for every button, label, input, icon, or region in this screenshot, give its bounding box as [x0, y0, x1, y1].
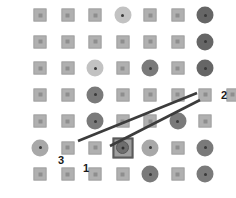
square-atom-marker: [171, 35, 184, 48]
label-1: 1: [83, 163, 89, 174]
atom-center-dot-icon: [66, 66, 70, 70]
atom-center-dot-icon: [93, 172, 97, 176]
atom-center-dot-icon: [66, 119, 70, 123]
atom-center-dot-icon: [93, 40, 97, 44]
square-atom-marker: [89, 35, 102, 48]
atom-center-dot-icon: [39, 146, 42, 149]
circle-atom-marker: [169, 113, 186, 130]
atom-center-dot-icon: [93, 146, 97, 150]
atom-center-dot-icon: [148, 13, 152, 17]
atom-center-dot-icon: [149, 67, 152, 70]
atom-center-dot-icon: [176, 93, 180, 97]
square-atom-marker: [61, 141, 74, 154]
atom-center-dot-icon: [176, 66, 180, 70]
square-atom-marker: [226, 88, 236, 101]
square-atom-marker: [34, 9, 47, 22]
atom-center-dot-icon: [176, 40, 180, 44]
atom-center-dot-icon: [176, 13, 180, 17]
atom-center-dot-icon: [66, 172, 70, 176]
square-atom-marker: [171, 168, 184, 181]
square-atom-marker: [89, 141, 102, 154]
lattice-figure: 123: [0, 0, 236, 198]
atom-center-dot-icon: [121, 146, 124, 149]
square-atom-marker: [34, 62, 47, 75]
square-atom-marker: [34, 115, 47, 128]
atom-center-dot-icon: [66, 40, 70, 44]
atom-center-dot-icon: [38, 40, 42, 44]
lower-line: [110, 100, 200, 146]
square-atom-marker: [116, 88, 129, 101]
atom-center-dot-icon: [204, 146, 207, 149]
atom-center-dot-icon: [148, 93, 152, 97]
circle-atom-marker: [87, 86, 104, 103]
square-atom-marker: [61, 168, 74, 181]
circle-atom-marker: [197, 33, 214, 50]
square-atom-marker: [61, 88, 74, 101]
atom-center-dot-icon: [148, 119, 152, 123]
circle-atom-marker: [197, 139, 214, 156]
atom-center-dot-icon: [66, 93, 70, 97]
square-atom-marker: [116, 168, 129, 181]
atom-center-dot-icon: [38, 172, 42, 176]
square-atom-marker: [144, 88, 157, 101]
square-atom-marker: [89, 168, 102, 181]
atom-center-dot-icon: [176, 146, 180, 150]
square-atom-marker: [116, 35, 129, 48]
atom-center-dot-icon: [121, 66, 125, 70]
circle-atom-marker: [197, 60, 214, 77]
square-atom-marker: [61, 115, 74, 128]
square-atom-marker: [144, 115, 157, 128]
square-atom-marker: [89, 9, 102, 22]
atom-center-dot-icon: [94, 67, 97, 70]
label-3: 3: [58, 155, 64, 166]
atom-center-dot-icon: [176, 172, 180, 176]
atom-center-dot-icon: [203, 119, 207, 123]
circle-atom-marker: [142, 139, 159, 156]
atom-center-dot-icon: [176, 120, 179, 123]
atom-center-dot-icon: [203, 93, 207, 97]
square-atom-marker: [144, 9, 157, 22]
square-atom-marker: [116, 115, 129, 128]
atom-center-dot-icon: [204, 14, 207, 17]
annotation-layer: 123: [0, 0, 236, 198]
square-atom-marker: [34, 35, 47, 48]
square-atom-marker: [199, 88, 212, 101]
square-atom-marker: [61, 9, 74, 22]
atom-center-dot-icon: [38, 119, 42, 123]
upper-line: [78, 93, 197, 141]
atom-center-dot-icon: [38, 13, 42, 17]
square-atom-marker: [34, 168, 47, 181]
atom-center-dot-icon: [66, 146, 70, 150]
square-atom-marker: [144, 35, 157, 48]
square-atom-marker: [61, 62, 74, 75]
square-atom-marker: [116, 62, 129, 75]
lattice-nodes-layer: [0, 0, 236, 198]
square-atom-marker: [34, 88, 47, 101]
circle-atom-marker: [142, 166, 159, 183]
atom-center-dot-icon: [204, 173, 207, 176]
circle-atom-marker: [142, 60, 159, 77]
atom-center-dot-icon: [149, 146, 152, 149]
selected-atom-marker[interactable]: [112, 137, 133, 158]
atom-center-dot-icon: [121, 14, 124, 17]
circle-atom-marker: [114, 7, 131, 24]
atom-center-dot-icon: [94, 93, 97, 96]
atom-center-dot-icon: [204, 40, 207, 43]
square-atom-marker: [171, 141, 184, 154]
square-atom-marker: [171, 9, 184, 22]
circle-atom-marker: [197, 7, 214, 24]
direction-lines-layer: [0, 0, 236, 198]
atom-center-dot-icon: [121, 172, 125, 176]
atom-center-dot-icon: [204, 67, 207, 70]
atom-center-dot-icon: [231, 93, 235, 97]
selected-atom-circle: [116, 141, 129, 154]
square-atom-marker: [199, 115, 212, 128]
atom-center-dot-icon: [94, 120, 97, 123]
atom-center-dot-icon: [38, 66, 42, 70]
circle-atom-marker: [197, 166, 214, 183]
atom-center-dot-icon: [148, 40, 152, 44]
square-atom-marker: [171, 62, 184, 75]
atom-center-dot-icon: [121, 119, 125, 123]
square-atom-marker: [61, 35, 74, 48]
atom-center-dot-icon: [149, 173, 152, 176]
